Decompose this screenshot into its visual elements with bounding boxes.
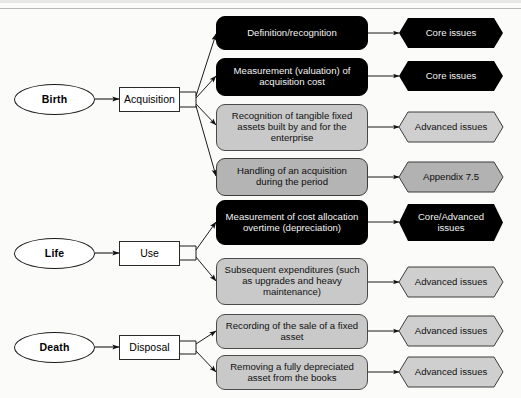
topic-box-cost-allocation-depreciation[interactable]: Measurement of cost allocation overtime … (216, 200, 368, 245)
classification-core-issues-definition[interactable]: Core issues (399, 18, 503, 48)
topic-box-subsequent-expenditures[interactable]: Subsequent expenditures (such as upgrade… (216, 258, 368, 305)
classification-appendix-7-5[interactable]: Appendix 7.5 (399, 162, 503, 192)
classification-core-issues-measurement[interactable]: Core issues (399, 61, 503, 91)
classification-advanced-issues-self-constructed[interactable]: Advanced issues (399, 112, 503, 142)
activity-box-use[interactable]: Use (119, 241, 180, 266)
activity-box-disposal[interactable]: Disposal (119, 335, 180, 360)
phase-ellipse-birth[interactable]: Birth (14, 84, 95, 115)
classification-advanced-issues-removal[interactable]: Advanced issues (399, 357, 503, 387)
topic-box-removing-depreciated-asset[interactable]: Removing a fully depreciated asset from … (216, 355, 368, 390)
activity-box-acquisition[interactable]: Acquisition (119, 87, 180, 112)
phase-ellipse-life[interactable]: Life (14, 238, 95, 269)
topic-box-handling-acquisition-during-period[interactable]: Handling of an acquisition during the pe… (216, 158, 368, 196)
scan-top-rule (0, 8, 521, 9)
topic-box-measurement-acquisition-cost[interactable]: Measurement (valuation) of acquisition c… (216, 58, 368, 96)
classification-core-advanced-issues-depreciation[interactable]: Core/Advanced issues (399, 204, 503, 241)
classification-advanced-issues-sale[interactable]: Advanced issues (399, 316, 503, 346)
scan-top-band (0, 0, 521, 3)
asset-lifecycle-diagram: Birth Life Death Acquisition Use Disposa… (0, 0, 521, 398)
phase-ellipse-death[interactable]: Death (14, 332, 95, 363)
topic-box-recording-sale-fixed-asset[interactable]: Recording of the sale of a fixed asset (216, 314, 368, 349)
topic-box-recognition-self-constructed-assets[interactable]: Recognition of tangible fixed assets bui… (216, 104, 368, 151)
topic-box-definition-recognition[interactable]: Definition/recognition (216, 16, 368, 50)
classification-advanced-issues-subsequent-expenditures[interactable]: Advanced issues (399, 267, 503, 297)
